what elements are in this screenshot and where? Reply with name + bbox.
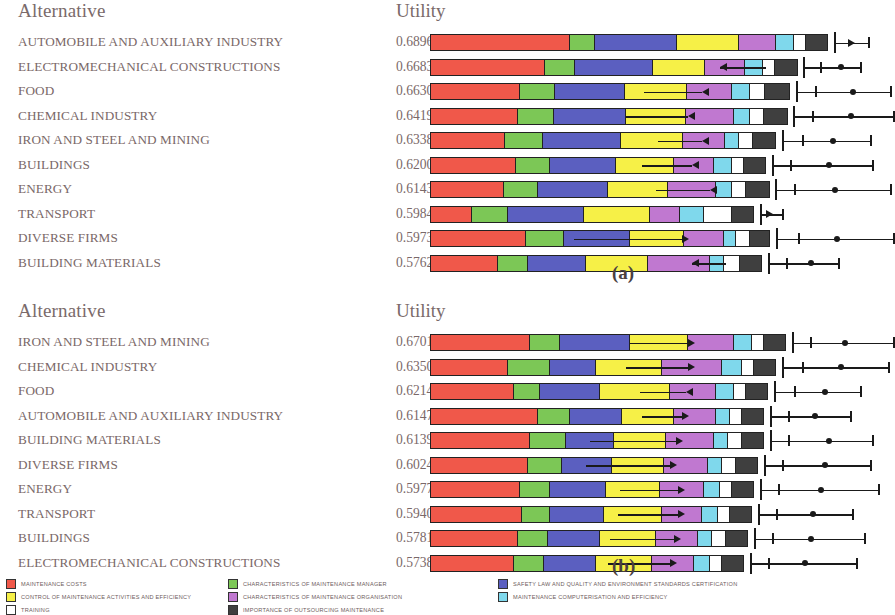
bar-segment	[518, 531, 548, 546]
utility-value: 0.5781	[396, 530, 433, 546]
bar-segment	[518, 109, 554, 124]
bar-segment	[722, 360, 742, 375]
stacked-bar-row	[430, 355, 893, 380]
bar-segment	[732, 482, 754, 497]
inner-range-line	[644, 92, 702, 94]
error-bar-end-cap	[872, 160, 874, 171]
bar-segment	[430, 384, 514, 399]
legend-label: CHARACTERISTICS OF MAINTENANCE MANAGER	[243, 581, 387, 587]
bar-segment	[764, 109, 788, 124]
stacked-bar	[430, 530, 748, 547]
arrow-marker	[692, 259, 699, 267]
alternative-label: IRON AND STEEL AND MINING	[18, 132, 210, 148]
bar-segment	[739, 133, 753, 148]
alternative-label: DIVERSE FIRMS	[18, 230, 118, 246]
data-point-marker	[802, 560, 808, 566]
legend-item: CONTROL OF MAINTENANCE ACTIVITIES AND EF…	[6, 591, 191, 602]
bar-segment	[550, 482, 606, 497]
bar-segment	[730, 409, 742, 424]
data-point-marker	[848, 113, 854, 119]
error-bar-end-cap	[782, 209, 784, 220]
bar-segment	[430, 158, 516, 173]
error-bar-end-cap	[870, 135, 872, 146]
legend-swatch	[228, 605, 238, 615]
legend-swatch	[228, 592, 238, 602]
utility-value: 0.6419	[396, 108, 433, 124]
data-point-marker	[838, 64, 844, 70]
table-row: BUILDING MATERIALS0.6139	[18, 428, 428, 453]
stacked-bar-row	[430, 428, 893, 453]
alternative-label: BUILDINGS	[18, 157, 90, 173]
bar-segment	[526, 231, 564, 246]
utility-value: 0.6024	[396, 457, 433, 473]
arrow-marker	[688, 112, 695, 120]
utility-value: 0.6214	[396, 383, 433, 399]
inner-range-line	[618, 514, 678, 516]
alternative-label: TRANSPORT	[18, 506, 95, 522]
bar-segment	[732, 207, 754, 222]
inner-range-line	[574, 239, 682, 241]
stacked-bar-row	[430, 226, 893, 251]
bar-segment	[712, 531, 726, 546]
bar-segment	[508, 360, 550, 375]
stacked-bar-row	[430, 30, 893, 55]
bar-segment	[430, 335, 530, 350]
error-bar-tick	[788, 435, 790, 446]
inner-range-line	[620, 490, 678, 492]
arrow-marker	[710, 186, 717, 194]
bar-segment	[430, 231, 526, 246]
bar-segment	[752, 335, 764, 350]
bar-segment	[714, 158, 732, 173]
error-bar-line	[758, 514, 852, 516]
legend-item: SAFETY LAW AND QUALITY AND ENVIRONMENT S…	[498, 578, 737, 589]
bar-segment	[775, 60, 798, 75]
bar-segment	[430, 256, 498, 271]
table-row: ELECTROMECHANICAL CONSTRUCTIONS0.6683	[18, 55, 428, 80]
chart-b	[430, 300, 893, 575]
panel-a: Alternative Utility AUTOMOBILE AND AUXIL…	[0, 0, 893, 300]
bar-segment	[684, 231, 724, 246]
error-bar-tick	[794, 386, 796, 397]
bar-segment	[730, 507, 752, 522]
bar-segment	[505, 133, 543, 148]
bar-segment	[724, 256, 740, 271]
error-bar-line	[803, 67, 860, 69]
arrow-marker	[682, 412, 689, 420]
bar-segment	[746, 384, 768, 399]
bar-segment	[430, 531, 518, 546]
inner-range-line	[642, 416, 682, 418]
column-header-alternative-b: Alternative	[18, 300, 106, 322]
legend-label: CHARACTERISTICS OF MAINTENANCE ORGANISAT…	[243, 594, 402, 600]
bar-segment	[430, 409, 538, 424]
bar-segment	[430, 556, 514, 571]
caption-b: (b)	[612, 555, 635, 577]
bar-segment	[650, 207, 680, 222]
error-bar-line	[796, 92, 890, 94]
stacked-bar-row	[430, 330, 893, 355]
bar-segment	[694, 556, 710, 571]
table-b: Alternative Utility IRON AND STEEL AND M…	[18, 300, 428, 575]
arrow-marker	[720, 63, 727, 71]
alternative-label: AUTOMOBILE AND AUXILIARY INDUSTRY	[18, 34, 283, 50]
arrow-marker	[676, 437, 683, 445]
table-a: Alternative Utility AUTOMOBILE AND AUXIL…	[18, 0, 428, 275]
data-point-marker	[830, 138, 836, 144]
alternative-label: ELECTROMECHANICAL CONSTRUCTIONS	[18, 59, 280, 75]
error-bar-tick	[790, 160, 792, 171]
table-row: TRANSPORT0.5984	[18, 202, 428, 227]
stacked-bar	[430, 359, 776, 376]
stacked-bar	[430, 334, 786, 351]
stacked-bar	[430, 408, 764, 425]
data-point-marker	[826, 162, 832, 168]
stacked-bar	[430, 206, 754, 223]
bar-segment	[430, 109, 518, 124]
bar-segment	[514, 556, 544, 571]
error-bar-end-cap	[870, 460, 872, 471]
error-bar-tick	[782, 460, 784, 471]
error-bar-end-cap	[890, 86, 892, 97]
table-a-header: Alternative Utility	[18, 0, 428, 30]
data-point-marker	[826, 438, 832, 444]
table-row: AUTOMOBILE AND AUXILIARY INDUSTRY0.6147	[18, 404, 428, 429]
stacked-bar	[430, 34, 828, 51]
bar-segment	[714, 433, 728, 448]
